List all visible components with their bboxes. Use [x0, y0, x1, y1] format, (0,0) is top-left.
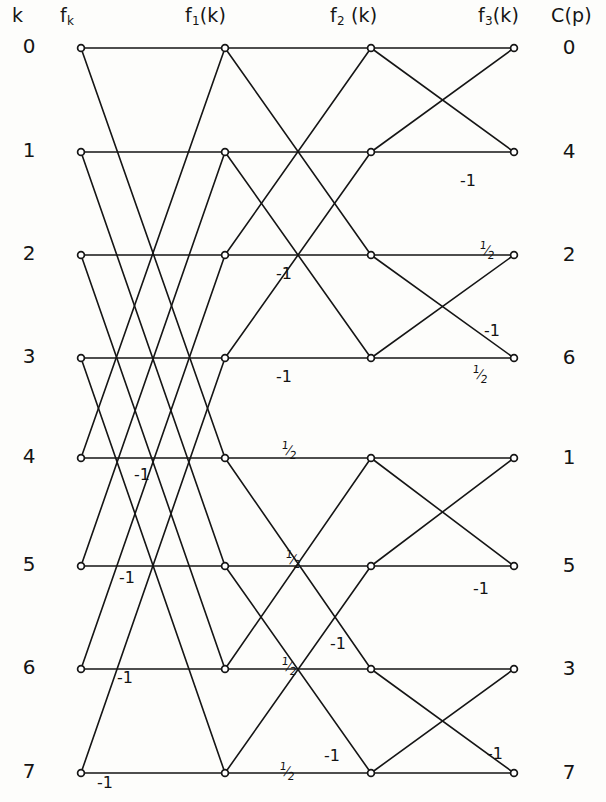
graph-node-c0-r7: [78, 770, 85, 777]
graph-node-c2-r5: [368, 563, 375, 570]
header-stage-f2-base: f: [330, 4, 337, 26]
graph-node-c1-r3: [222, 355, 229, 362]
graph-node-c1-r5: [222, 563, 229, 570]
flow-graph-canvas: [0, 0, 606, 802]
header-stage-f2-tail: (k): [345, 4, 378, 26]
output-value-row-2: 2: [556, 242, 582, 266]
graph-node-c1-r1: [222, 149, 229, 156]
header-stage-f1: f1(k): [185, 4, 226, 26]
weight-label-half-15: 1⁄2: [279, 761, 295, 782]
header-index: k: [12, 4, 23, 26]
weight-label-minus-one-10: -1: [473, 581, 489, 597]
weight-label-minus-one-6: -1: [134, 467, 150, 483]
graph-node-c3-r6: [511, 666, 518, 673]
header-stage-f1-sub: 1: [192, 14, 200, 28]
graph-node-c3-r1: [511, 149, 518, 156]
weight-label-half-12: 1⁄2: [281, 656, 297, 677]
graph-node-c0-r6: [78, 666, 85, 673]
graph-node-c0-r1: [78, 149, 85, 156]
weight-label-minus-one-11: -1: [117, 670, 133, 686]
output-value-row-5: 5: [556, 553, 582, 577]
edge-layer: [81, 48, 514, 773]
weight-label-minus-one-0: -1: [460, 173, 476, 189]
graph-node-c3-r4: [511, 455, 518, 462]
header-stage-f2-sub: 2: [337, 14, 345, 28]
row-index-4: 4: [16, 444, 42, 468]
header-stage-fk-base: f: [60, 4, 67, 26]
row-index-5: 5: [16, 552, 42, 576]
weight-label-half-7: 1⁄2: [281, 440, 297, 461]
node-layer: [78, 45, 518, 777]
graph-node-c3-r7: [511, 770, 518, 777]
fraction-one-half: 1⁄2: [471, 364, 489, 385]
weight-label-half-9: 1⁄2: [285, 549, 301, 570]
header-stage-f3-sub: 3: [485, 14, 493, 28]
fraction-one-half: 1⁄2: [280, 656, 298, 677]
graph-node-c0-r0: [78, 45, 85, 52]
header-stage-f2: f2 (k): [330, 4, 377, 26]
row-index-0: 0: [16, 34, 42, 58]
graph-node-c1-r2: [222, 252, 229, 259]
graph-node-c2-r7: [368, 770, 375, 777]
output-value-row-7: 7: [556, 760, 582, 784]
weight-label-minus-one-17: -1: [487, 746, 503, 762]
weight-label-minus-one-14: -1: [97, 775, 113, 791]
graph-node-c0-r2: [78, 252, 85, 259]
graph-node-c2-r3: [368, 355, 375, 362]
output-value-row-3: 6: [556, 345, 582, 369]
header-stage-fk: fk: [60, 4, 74, 26]
output-value-row-6: 3: [556, 656, 582, 680]
graph-node-c0-r4: [78, 455, 85, 462]
row-index-6: 6: [16, 655, 42, 679]
header-stage-f1-tail: (k): [200, 4, 226, 26]
header-stage-fk-sub: k: [67, 14, 74, 28]
graph-node-c2-r0: [368, 45, 375, 52]
graph-node-c2-r2: [368, 252, 375, 259]
weight-label-minus-one-4: -1: [276, 369, 292, 385]
graph-node-c1-r7: [222, 770, 229, 777]
weight-label-minus-one-8: -1: [119, 570, 135, 586]
row-index-3: 3: [16, 344, 42, 368]
graph-node-c1-r4: [222, 455, 229, 462]
graph-node-c0-r3: [78, 355, 85, 362]
weight-label-minus-one-3: -1: [484, 323, 500, 339]
output-value-row-4: 1: [556, 445, 582, 469]
row-index-2: 2: [16, 241, 42, 265]
graph-node-c0-r5: [78, 563, 85, 570]
graph-node-c2-r4: [368, 455, 375, 462]
header-stage-f3-base: f: [478, 4, 485, 26]
header-stage-f1-base: f: [185, 4, 192, 26]
graph-node-c3-r2: [511, 252, 518, 259]
weight-label-minus-one-13: -1: [330, 636, 346, 652]
weight-label-half-2: 1⁄2: [479, 240, 495, 261]
row-index-7: 7: [16, 759, 42, 783]
weight-label-half-5: 1⁄2: [472, 364, 488, 385]
fft-flow-graph-figure: k fk f1(k) f2 (k) f3(k) C(p) 01234567 04…: [0, 0, 606, 802]
graph-node-c2-r1: [368, 149, 375, 156]
weight-label-minus-one-1: -1: [276, 266, 292, 282]
graph-node-c2-r6: [368, 666, 375, 673]
row-index-1: 1: [16, 138, 42, 162]
output-value-row-1: 4: [556, 139, 582, 163]
fraction-one-half: 1⁄2: [278, 761, 296, 782]
header-stage-f3-tail: (k): [493, 4, 519, 26]
graph-node-c3-r3: [511, 355, 518, 362]
weight-label-minus-one-16: -1: [324, 748, 340, 764]
header-stage-f3: f3(k): [478, 4, 519, 26]
fraction-one-half: 1⁄2: [280, 440, 298, 461]
fraction-one-half: 1⁄2: [284, 549, 302, 570]
graph-node-c3-r5: [511, 563, 518, 570]
graph-node-c1-r6: [222, 666, 229, 673]
header-output-cp: C(p): [551, 4, 592, 26]
fraction-one-half: 1⁄2: [478, 240, 496, 261]
graph-node-c1-r0: [222, 45, 229, 52]
output-value-row-0: 0: [556, 35, 582, 59]
graph-node-c3-r0: [511, 45, 518, 52]
